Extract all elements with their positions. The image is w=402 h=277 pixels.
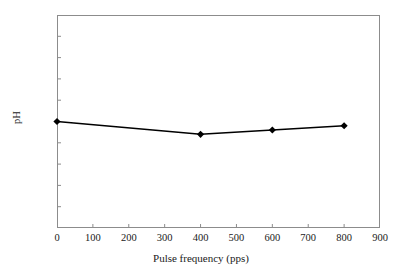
x-tick-label: 700: [288, 232, 328, 243]
data-point-marker: [341, 122, 348, 129]
x-tick-label: 500: [216, 232, 256, 243]
x-tick-label: 0: [37, 232, 77, 243]
x-tick-label: 300: [145, 232, 185, 243]
x-tick-label: 400: [181, 232, 221, 243]
x-axis-ticks: [93, 224, 344, 228]
y-axis-title: pH: [11, 98, 22, 138]
chart-figure: 3.53.553.63.653.73.753.83.853.93.954 pH …: [0, 0, 402, 277]
x-tick-label: 600: [252, 232, 292, 243]
data-point-marker: [269, 126, 276, 133]
x-tick-label: 100: [73, 232, 113, 243]
x-tick-label: 200: [109, 232, 149, 243]
plot-series-svg: [57, 15, 380, 228]
data-point-marker: [53, 118, 60, 125]
x-tick-label: 900: [360, 232, 400, 243]
x-tick-label: 800: [324, 232, 364, 243]
data-point-marker: [197, 131, 204, 138]
x-axis-title: Pulse frequency (pps): [0, 252, 402, 264]
